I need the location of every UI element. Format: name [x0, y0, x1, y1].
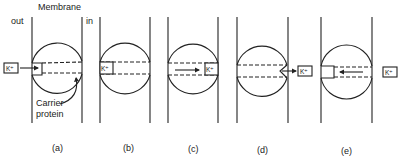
carrier-notch	[321, 66, 334, 78]
channel-dash-top	[42, 62, 82, 63]
caption-e: (e)	[341, 146, 352, 156]
caption-c: (c)	[188, 144, 199, 154]
membrane-label: Membrane	[38, 2, 81, 12]
ion-label-b: K⁺	[101, 65, 109, 72]
caption-b: (b)	[123, 143, 134, 153]
carrier-protein-top	[32, 43, 82, 63]
ion-label-c: K⁺	[206, 66, 214, 73]
ion-label-e: K⁺	[385, 69, 393, 76]
carrier-label-line1: Carrier	[36, 98, 64, 108]
ion-label-d: K⁺	[300, 68, 308, 75]
ion-label-a: K⁺	[6, 65, 14, 72]
in-label: in	[86, 16, 93, 26]
out-label: out	[11, 16, 24, 26]
carrier-transport-diagram: Membrane out in K⁺ K⁺ K⁺ K⁺ K⁺ Carrier p…	[0, 0, 399, 160]
carrier-protein-bottom	[32, 74, 82, 93]
caption-d: (d)	[257, 145, 268, 155]
caption-a: (a)	[52, 143, 63, 153]
carrier-label-line2: protein	[36, 109, 64, 119]
